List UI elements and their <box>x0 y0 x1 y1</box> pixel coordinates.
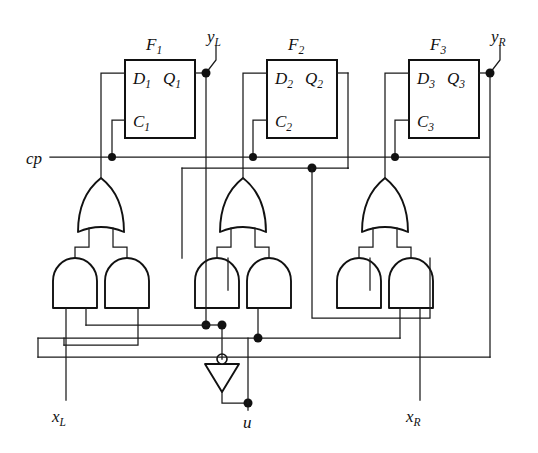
junction-u-bus <box>254 334 263 343</box>
junction-q3-tap <box>486 69 495 78</box>
junction-ubar-inverter <box>218 321 227 330</box>
junction-clock-f1 <box>108 153 116 161</box>
and-gate-2a <box>195 258 239 308</box>
inverter-u <box>205 354 239 392</box>
control-u-label: u <box>243 413 252 432</box>
flipflop-f3-title: F3 <box>429 35 446 56</box>
and-gate-3b <box>389 258 433 308</box>
or-gate-3 <box>362 178 408 232</box>
circuit-diagram: F1 D1 Q1 C1 F2 D2 Q2 C2 F3 D3 <box>0 0 538 453</box>
junction-clock-f3 <box>391 153 399 161</box>
flipflop-f1-title: F1 <box>145 35 162 56</box>
flipflop-f2-title: F2 <box>287 35 304 56</box>
and-gate-2b <box>247 258 291 308</box>
junction-clock-f2 <box>249 153 257 161</box>
logic-circuit-canvas: F1 D1 Q1 C1 F2 D2 Q2 C2 F3 D3 <box>0 0 538 453</box>
or-gate-2 <box>220 178 266 232</box>
or-gate-1 <box>78 178 124 232</box>
and-gate-1a <box>53 258 97 308</box>
output-yl-label: yL <box>205 27 221 48</box>
output-yr-label: yR <box>489 27 506 48</box>
and-gate-3a <box>337 258 381 308</box>
clock-signal-label: cp <box>26 149 42 168</box>
junction-q1-tap <box>202 69 211 78</box>
input-xr-label: xR <box>405 407 421 428</box>
and-gate-1b <box>105 258 149 308</box>
input-xl-label: xL <box>51 407 66 428</box>
